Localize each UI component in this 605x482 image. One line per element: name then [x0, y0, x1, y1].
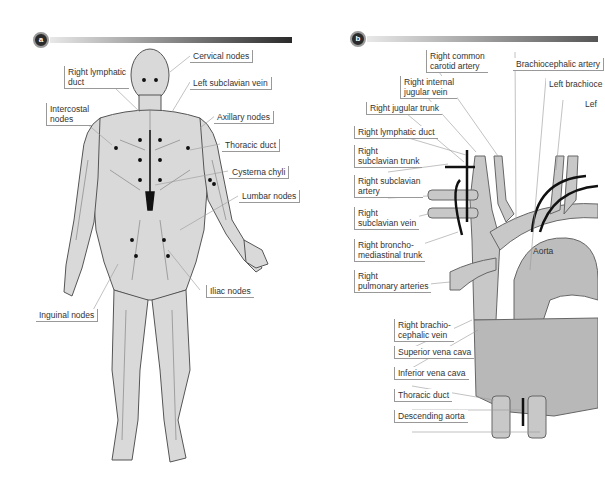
label-cervical-nodes: Cervical nodes	[190, 50, 253, 63]
label-superior-vena-cava: Superior vena cava	[394, 346, 474, 359]
label-lumbar-nodes: Lumbar nodes	[239, 190, 300, 203]
label-right-brachiocephalic-vein: Right brachio- cephalic vein	[394, 319, 454, 342]
label-right-jugular-trunk: Right jugular trunk	[366, 102, 442, 115]
panel-b-heart-vessels: b	[300, 0, 598, 482]
label-cisterna-chyli: Cysterna chyli	[229, 166, 289, 179]
label-right-lymphatic-duct: Right lymphatic duct	[64, 66, 129, 89]
label-inferior-vena-cava: Inferior vena cava	[394, 367, 469, 380]
label-right-bronchomediastinal-trunk: Right broncho- mediastinal trunk	[354, 239, 425, 262]
label-intercostal-nodes: Intercostal nodes	[46, 103, 92, 126]
label-thoracic-duct: Thoracic duct	[222, 139, 280, 152]
label-descending-aorta: Descending aorta	[394, 410, 468, 423]
label-inguinal-nodes: Inguinal nodes	[36, 309, 98, 322]
label-right-subclavian-vein: Right subclavian vein	[354, 207, 419, 230]
label-right-subclavian-artery: Right subclavian artery	[354, 175, 423, 198]
label-right-lymphatic-duct-b: Right lymphatic duct	[354, 126, 438, 139]
label-aorta: Aorta	[530, 245, 556, 257]
panel-a-lymphatic-body: a	[0, 0, 300, 482]
label-right-pulmonary-arteries: Right pulmonary arteries	[354, 270, 431, 293]
label-axillary-nodes: Axillary nodes	[214, 111, 274, 124]
label-left-brachiocephalic: Left brachioce	[546, 78, 605, 90]
label-iliac-nodes: Iliac nodes	[206, 285, 254, 298]
label-thoracic-duct-b: Thoracic duct	[394, 389, 452, 402]
label-right-internal-jugular-vein: Right internal jugular vein	[400, 76, 457, 99]
body-illustration	[0, 0, 300, 482]
label-right-common-carotid-artery: Right common carotid artery	[426, 50, 488, 73]
label-left-subclavian-vein: Left subclavian vein	[190, 77, 272, 90]
label-left-cut: Lef	[582, 98, 600, 110]
label-brachiocephalic-artery: Brachiocephalic artery	[513, 58, 604, 71]
label-right-subclavian-trunk: Right subclavian trunk	[354, 145, 422, 168]
